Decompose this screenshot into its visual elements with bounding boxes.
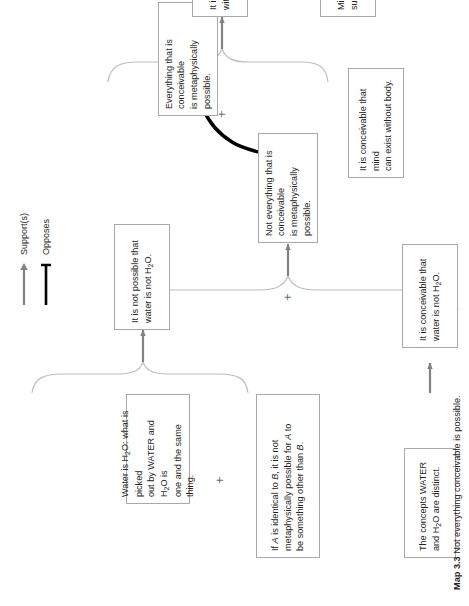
box-concepts-distinct-text: The concepts WATERand H2O are distinct. bbox=[417, 462, 443, 551]
box-concepts-distinct[interactable]: The concepts WATERand H2O are distinct. bbox=[404, 448, 456, 558]
box-possible-mind-without-body-text: It is possible that mind can exist witho… bbox=[207, 0, 232, 10]
plus-mid-premises: + bbox=[281, 293, 294, 301]
legend-opposes-icon bbox=[40, 262, 52, 306]
legend-row-opposes: Opposes bbox=[40, 219, 52, 306]
brace-bottom-premises bbox=[108, 49, 328, 82]
box-mind-body-distinct-text: Mind and body are distinct substances. bbox=[335, 0, 360, 10]
map-caption: Map 3.3 Not everything conceivable is po… bbox=[452, 395, 462, 590]
plus-top-premises: + bbox=[213, 476, 226, 484]
box-not-possible-water-not-h2o[interactable]: It is not possible thatwater is not H2O. bbox=[114, 224, 170, 330]
box-water-is-h2o[interactable]: Water is H2O: what is pickedout by WATER… bbox=[126, 394, 190, 504]
box-conceivable-mind-without-body[interactable]: It is conceivable that mindcan exist wit… bbox=[348, 68, 404, 178]
box-conceivable-water-not-h2o-text: It is conceivable thatwater is not H2O. bbox=[417, 259, 443, 341]
legend-supports-label: Support(s) bbox=[19, 213, 29, 255]
legend-opposes-label: Opposes bbox=[41, 219, 51, 255]
legend-supports-icon bbox=[18, 262, 30, 306]
box-everything-conceivable-text: Everything that is conceivableis metaphy… bbox=[163, 9, 213, 109]
box-mind-body-distinct[interactable]: Mind and body are distinct substances. bbox=[320, 0, 376, 17]
box-not-everything-conceivable[interactable]: Not everything that is conceivableis met… bbox=[258, 133, 318, 243]
brace-top-premises bbox=[32, 362, 248, 393]
box-not-everything-conceivable-text: Not everything that is conceivableis met… bbox=[263, 140, 313, 236]
box-water-is-h2o-text: Water is H2O: what is pickedout by WATER… bbox=[119, 401, 197, 497]
legend-row-supports: Support(s) bbox=[18, 213, 30, 306]
map-caption-text: Not everything conceivable is possible. bbox=[452, 395, 462, 553]
box-possible-mind-without-body[interactable]: It is possible that mind can exist witho… bbox=[192, 0, 248, 17]
box-conceivable-mind-without-body-text: It is conceivable that mindcan exist wit… bbox=[357, 75, 395, 171]
box-not-possible-water-not-h2o-text: It is not possible thatwater is not H2O. bbox=[129, 240, 155, 323]
box-conceivable-water-not-h2o[interactable]: It is conceivable thatwater is not H2O. bbox=[402, 244, 458, 348]
box-everything-conceivable[interactable]: Everything that is conceivableis metaphy… bbox=[158, 2, 218, 116]
box-identity-necessity-text: If A is identical to B, it is notmetaphy… bbox=[269, 424, 307, 551]
argument-map-canvas: The concepts WATERand H2O are distinct. … bbox=[0, 0, 469, 606]
map-caption-label: Map 3.3 bbox=[452, 556, 462, 590]
legend: Support(s) Opposes bbox=[18, 146, 62, 306]
box-identity-necessity[interactable]: If A is identical to B, it is notmetaphy… bbox=[256, 394, 320, 558]
plus-bottom-premises: + bbox=[215, 110, 228, 118]
